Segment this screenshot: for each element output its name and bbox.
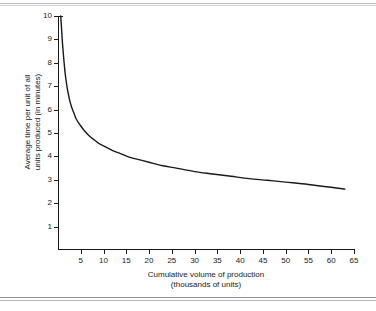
x-tick-label-65: 65 (350, 257, 359, 265)
y-tick-label-1: 1 (48, 223, 52, 231)
x-tick-label-30: 30 (190, 257, 199, 265)
top-divider-rule-lower (0, 5, 376, 6)
learning-curve-line (58, 16, 354, 250)
x-tick-label-55: 55 (304, 257, 313, 265)
x-tick-label-45: 45 (258, 257, 267, 265)
bottom-divider-rule-upper (0, 297, 376, 298)
x-tick-label-25: 25 (167, 257, 176, 265)
y-tick-label-8: 8 (48, 59, 52, 67)
x-tick-label-40: 40 (236, 257, 245, 265)
x-tick-label-5: 5 (79, 257, 83, 265)
y-tick-label-2: 2 (48, 199, 52, 207)
x-axis-title: Cumulative volume of production (thousan… (58, 270, 354, 290)
top-divider-rule-upper (0, 3, 376, 4)
x-tick-label-10: 10 (99, 257, 108, 265)
y-tick-label-5: 5 (48, 129, 52, 137)
learning-curve-figure: 12345678910 5101520253035404550556065 Av… (0, 0, 376, 311)
x-tick-label-50: 50 (281, 257, 290, 265)
x-tick-label-35: 35 (213, 257, 222, 265)
y-tick-label-3: 3 (48, 176, 52, 184)
x-tick-label-15: 15 (122, 257, 131, 265)
plot-area: 12345678910 5101520253035404550556065 (58, 16, 354, 250)
y-axis-title: Average time per unit of all units produ… (13, 0, 53, 52)
y-tick-label-4: 4 (48, 152, 52, 160)
y-axis-title-text: Average time per unit of all units produ… (23, 52, 43, 192)
x-tick-label-60: 60 (327, 257, 336, 265)
x-tick-65 (354, 249, 355, 254)
y-tick-label-7: 7 (48, 82, 52, 90)
y-tick-label-6: 6 (48, 106, 52, 114)
bottom-divider-rule-lower (0, 300, 376, 301)
x-tick-label-20: 20 (145, 257, 154, 265)
